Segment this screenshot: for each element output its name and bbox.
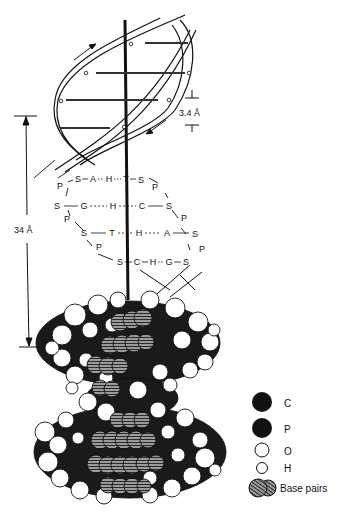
svg-text:P: P — [181, 213, 187, 223]
svg-text:S: S — [81, 228, 87, 238]
svg-text:H: H — [284, 463, 291, 474]
svg-text:T: T — [123, 174, 129, 184]
legend-item-p: P — [252, 418, 291, 438]
svg-text:P: P — [284, 424, 291, 435]
svg-text:H: H — [110, 201, 117, 211]
svg-text:P: P — [57, 181, 63, 191]
dna-helix-diagram: 3.4 Å 34 Å P S A H T S P — [0, 0, 345, 509]
legend-item-c: C — [252, 392, 291, 412]
svg-text:G: G — [165, 257, 172, 267]
svg-text:P: P — [152, 182, 158, 192]
svg-text:A: A — [164, 228, 170, 238]
helix-axis — [125, 20, 128, 300]
legend: C P O H Base pairs — [249, 392, 327, 497]
svg-text:T: T — [109, 228, 115, 238]
svg-text:S: S — [166, 201, 172, 211]
svg-text:P: P — [199, 244, 205, 254]
legend-item-h: H — [257, 463, 292, 475]
svg-text:C: C — [284, 398, 291, 409]
svg-text:C: C — [139, 201, 146, 211]
svg-text:S: S — [75, 174, 81, 184]
base-pair-row-4: P S C H G S — [96, 242, 189, 267]
legend-item-base-pairs: Base pairs — [249, 479, 327, 497]
svg-text:G: G — [80, 201, 87, 211]
svg-text:C: C — [134, 257, 141, 267]
svg-text:S: S — [138, 175, 144, 185]
rise-label: 3.4 Å — [179, 108, 200, 118]
spacefill-model — [34, 291, 226, 504]
svg-text:P: P — [64, 214, 70, 224]
svg-text:S: S — [192, 229, 198, 239]
svg-text:A: A — [90, 174, 96, 184]
pitch-label: 34 Å — [14, 225, 33, 235]
svg-text:S: S — [183, 257, 189, 267]
svg-text:H: H — [106, 174, 113, 184]
svg-text:H: H — [136, 228, 143, 238]
svg-text:P: P — [96, 242, 102, 252]
svg-text:S: S — [54, 201, 60, 211]
base-pair-row-2: S G H C S P — [54, 201, 187, 223]
svg-text:O: O — [284, 446, 292, 457]
svg-text:H: H — [150, 257, 157, 267]
svg-text:S: S — [117, 257, 123, 267]
legend-item-o: O — [255, 443, 292, 457]
svg-text:Base pairs: Base pairs — [280, 483, 327, 494]
base-pair-row-1: P S A H T S P — [57, 174, 158, 192]
